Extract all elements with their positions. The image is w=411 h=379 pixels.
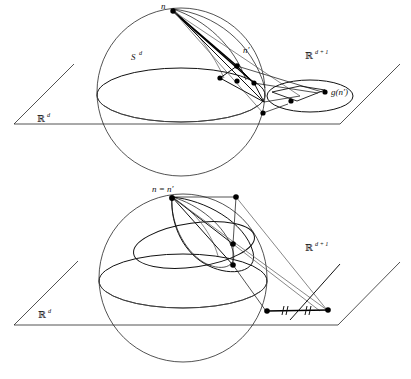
bottom-labels: n = n′ ℝ d + 1 ℝ d [38,184,328,320]
svg-text:ℝ: ℝ [305,242,313,253]
svg-text:ℝ: ℝ [305,50,313,61]
bottom-sphere [99,194,267,362]
top-labels: n n′ S d ℝ d + 1 ℝ d g(n′) [37,1,348,124]
bottom-great-circles [131,197,258,275]
svg-text:d + 1: d + 1 [315,240,328,247]
label-base-plane-bottom: ℝ d [38,307,52,320]
svg-text:d + 1: d + 1 [315,48,328,55]
label-sphere: S d [131,49,143,62]
figure-canvas: n n′ S d ℝ d + 1 ℝ d g(n′) [0,0,411,379]
top-projection-rays [173,11,322,113]
stereographic-projection-figure: n n′ S d ℝ d + 1 ℝ d g(n′) [0,0,411,379]
label-north-pole-equality: n = n′ [152,184,175,194]
bottom-measured-segment [267,306,328,315]
point-sphere-a [251,80,256,85]
point-mid [230,241,236,247]
point-sphere-b [234,78,239,83]
label-north-pole: n [161,1,166,11]
point-plane-right [325,307,331,313]
point-image-b [288,98,293,103]
point-lower [230,262,236,268]
bottom-tangent-line [290,264,340,320]
point-top-right [233,194,239,200]
label-image-g-n-prime: g(n′) [331,87,348,97]
top-panel: n n′ S d ℝ d + 1 ℝ d g(n′) [14,1,400,176]
bottom-panel: n = n′ ℝ d + 1 ℝ d [14,184,400,362]
point-image-a [322,89,327,94]
svg-text:S: S [131,52,136,62]
point-north-pole [170,8,175,13]
svg-text:d: d [139,49,143,56]
point-north-pole-equal [169,195,175,201]
point-sphere-d [260,110,265,115]
point-sphere-c [217,75,222,80]
svg-text:d: d [48,307,52,314]
point-n-prime [234,63,239,68]
svg-text:ℝ: ℝ [37,113,45,124]
label-ambient-space: ℝ d + 1 [305,48,328,61]
top-sphere [97,8,265,176]
label-n-prime: n′ [243,45,251,55]
svg-text:d: d [47,111,51,118]
bottom-base-plane [14,261,400,325]
label-ambient-space-bottom: ℝ d + 1 [305,240,328,253]
label-base-plane: ℝ d [37,111,51,124]
point-plane-left [264,308,270,314]
svg-text:ℝ: ℝ [38,309,46,320]
